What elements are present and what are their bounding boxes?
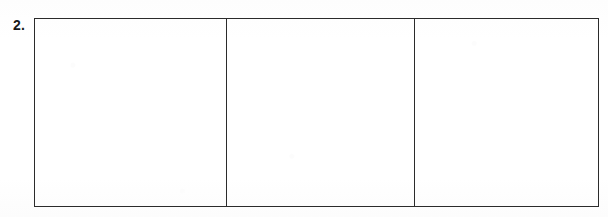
worksheet-item-2: 2. (0, 0, 608, 217)
answer-cell-2-writing-area[interactable] (227, 19, 414, 206)
answer-cell-2[interactable] (226, 19, 414, 206)
answer-cell-3-writing-area[interactable] (415, 19, 598, 206)
answer-cell-1-writing-area[interactable] (35, 19, 226, 206)
answer-box-grid (34, 18, 599, 207)
answer-cell-1[interactable] (35, 19, 226, 206)
answer-cell-3[interactable] (414, 19, 598, 206)
question-number-label: 2. (13, 17, 25, 33)
